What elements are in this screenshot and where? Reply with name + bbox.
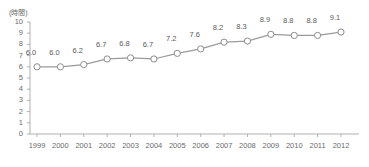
- data-point-label: 6.0: [42, 48, 66, 57]
- line-chart: (時間) 01234567891019992000200120022003200…: [0, 0, 369, 167]
- y-tick-label: 0: [9, 130, 23, 138]
- data-point-label: 6.0: [19, 48, 43, 57]
- y-tick-label: 9: [9, 29, 23, 37]
- data-point-label: 7.6: [183, 30, 207, 39]
- data-point-marker: [198, 46, 204, 52]
- data-point-label: 8.2: [206, 23, 230, 32]
- y-tick-label: 4: [9, 85, 23, 93]
- data-point-label: 7.2: [159, 34, 183, 43]
- y-tick-label: 10: [9, 18, 23, 26]
- data-point-marker: [81, 61, 87, 67]
- data-point-marker: [34, 64, 40, 70]
- data-point-label: 8.9: [253, 15, 277, 24]
- data-point-marker: [127, 55, 133, 61]
- y-tick-label: 1: [9, 119, 23, 127]
- data-point-marker: [57, 64, 63, 70]
- data-point-label: 6.7: [136, 40, 160, 49]
- data-point-marker: [338, 29, 344, 35]
- data-point-label: 8.3: [229, 22, 253, 31]
- y-tick-label: 6: [9, 63, 23, 71]
- data-point-marker: [268, 31, 274, 37]
- y-tick-label: 2: [9, 108, 23, 116]
- data-point-marker: [315, 32, 321, 38]
- data-point-label: 8.8: [276, 16, 300, 25]
- y-tick-label: 5: [9, 74, 23, 82]
- plot-area: 0123456789101999200020012002200320042005…: [0, 0, 369, 167]
- data-point-label: 6.8: [113, 39, 137, 48]
- data-point-label: 9.1: [323, 13, 347, 22]
- data-point-marker: [151, 56, 157, 62]
- data-point-marker: [221, 39, 227, 45]
- data-point-label: 6.2: [66, 46, 90, 55]
- data-point-marker: [104, 56, 110, 62]
- data-point-label: 6.7: [89, 40, 113, 49]
- data-point-label: 8.8: [300, 16, 324, 25]
- x-tick-label: 2012: [326, 141, 356, 150]
- data-point-marker: [244, 38, 250, 44]
- y-tick-label: 3: [9, 96, 23, 104]
- data-point-marker: [291, 32, 297, 38]
- data-point-marker: [174, 50, 180, 56]
